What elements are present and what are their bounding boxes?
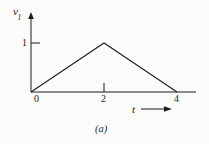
y-axis-label: v1: [13, 6, 22, 20]
y-axis-label-subscript: 1: [17, 13, 21, 22]
y-tick-label-1: 1: [22, 38, 27, 48]
figure-caption: (a): [95, 124, 107, 135]
x-tick-label-0: 0: [34, 94, 39, 104]
y-axis-arrowhead: [28, 12, 34, 19]
figure-container: v1 1 0 2 4 t (a): [0, 0, 209, 144]
x-axis-label: t: [132, 104, 135, 115]
t-axis-arrowhead: [164, 106, 172, 112]
x-tick-label-4: 4: [174, 94, 179, 104]
x-tick-label-2: 2: [101, 94, 106, 104]
